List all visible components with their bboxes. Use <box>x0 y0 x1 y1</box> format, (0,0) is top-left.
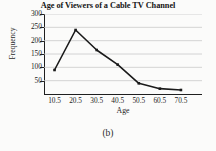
figure-caption: (b) <box>0 128 216 138</box>
y-tick-label: 150 <box>8 50 42 58</box>
data-point-marker <box>74 29 77 32</box>
y-tick-label: 200 <box>8 37 42 45</box>
figure-panel: Age of Viewers of a Cable TV Channel Fre… <box>0 0 216 151</box>
y-axis-tick-labels: 50100150200250300 <box>4 14 42 94</box>
data-point-marker <box>116 63 119 66</box>
data-point-marker <box>53 69 56 72</box>
data-point-marker <box>138 82 141 85</box>
y-tick-label: 300 <box>8 10 42 18</box>
y-tick-label: 100 <box>8 63 42 71</box>
data-point-marker <box>159 87 162 90</box>
data-point-marker <box>180 89 183 92</box>
data-point-marker <box>95 49 98 52</box>
x-axis-label: Age <box>44 106 202 115</box>
chart-svg <box>44 14 202 94</box>
plot-area <box>44 14 202 94</box>
y-tick-label: 250 <box>8 23 42 31</box>
x-axis-line <box>44 94 202 95</box>
y-tick-label: 50 <box>8 77 42 85</box>
x-tick-label: 70.5 <box>168 96 194 105</box>
